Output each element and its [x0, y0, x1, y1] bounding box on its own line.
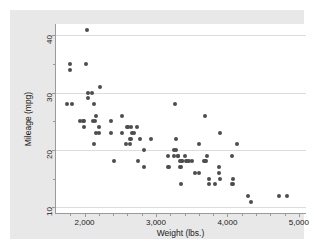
- x-tick-2000: [85, 213, 86, 217]
- data-point: [217, 171, 221, 175]
- x-tick-minor-1800: [70, 213, 71, 216]
- data-point: [135, 125, 139, 129]
- x-axis-title-text: Weight (lbs.): [157, 228, 205, 238]
- data-point: [172, 154, 176, 158]
- y-tick-minor-15: [53, 179, 56, 180]
- data-point: [246, 194, 250, 198]
- gridline-y-20: [56, 150, 306, 151]
- data-point: [277, 194, 281, 198]
- data-point: [85, 28, 89, 32]
- data-point: [125, 125, 129, 129]
- data-point: [128, 142, 132, 146]
- data-point: [218, 177, 222, 181]
- y-tick-label-10: 10: [46, 207, 54, 216]
- y-tick-label-40: 40: [46, 35, 54, 44]
- data-point: [138, 137, 142, 141]
- x-tick-5000: [299, 213, 300, 217]
- x-tick-minor-2600: [127, 213, 128, 216]
- x-axis-title: Weight (lbs.): [55, 228, 306, 238]
- data-point: [235, 142, 239, 146]
- data-point: [174, 148, 178, 152]
- x-tick-label-3000: 3,000: [146, 219, 166, 227]
- y-axis-title: Mileage (mpg): [22, 24, 34, 214]
- data-point: [98, 85, 102, 89]
- x-tick-3000: [156, 213, 157, 217]
- x-tick-4000: [227, 213, 228, 217]
- data-point: [149, 137, 153, 141]
- data-point: [174, 137, 178, 141]
- data-point: [70, 102, 74, 106]
- data-point: [120, 131, 124, 135]
- data-point: [213, 182, 217, 186]
- x-tick-label-5000: 5,000: [289, 219, 309, 227]
- data-point: [68, 62, 72, 66]
- data-point: [68, 68, 72, 72]
- data-point: [92, 142, 96, 146]
- data-point: [84, 62, 88, 66]
- data-point: [82, 125, 86, 129]
- data-point: [231, 177, 235, 181]
- x-tick-minor-4200: [242, 213, 243, 216]
- gridline-y-10: [56, 207, 306, 208]
- data-point: [217, 165, 221, 169]
- data-point: [97, 125, 101, 129]
- x-tick-minor-3200: [170, 213, 171, 216]
- y-axis-title-text: Mileage (mpg): [23, 92, 33, 146]
- data-point: [203, 114, 207, 118]
- graph-region: Mileage (mpg) 10203040 2,0003,0004,0005,…: [10, 10, 304, 239]
- data-point: [179, 182, 183, 186]
- data-point: [120, 114, 124, 118]
- x-tick-minor-4800: [285, 213, 286, 216]
- data-point: [92, 102, 96, 106]
- data-point: [65, 102, 69, 106]
- y-tick-minor-25: [53, 121, 56, 122]
- y-tick-label-20: 20: [46, 150, 54, 159]
- x-tick-minor-2400: [113, 213, 114, 216]
- data-point: [109, 119, 113, 123]
- y-tick-minor-35: [53, 64, 56, 65]
- data-point: [94, 114, 98, 118]
- y-tick-label-30: 30: [46, 93, 54, 102]
- data-point: [90, 91, 94, 95]
- data-point: [285, 194, 289, 198]
- data-point: [178, 165, 182, 169]
- x-tick-minor-4600: [270, 213, 271, 216]
- data-point: [249, 200, 253, 204]
- data-point: [197, 142, 201, 146]
- data-point: [109, 131, 113, 135]
- data-point: [112, 159, 116, 163]
- x-tick-minor-2800: [142, 213, 143, 216]
- data-point: [176, 154, 180, 158]
- data-point: [173, 102, 177, 106]
- data-point: [86, 96, 90, 100]
- x-tick-minor-3400: [185, 213, 186, 216]
- data-point: [207, 177, 211, 181]
- data-point: [218, 131, 222, 135]
- data-point: [166, 154, 170, 158]
- data-point: [94, 131, 98, 135]
- x-tick-minor-3600: [199, 213, 200, 216]
- x-tick-minor-2200: [99, 213, 100, 216]
- x-tick-minor-4400: [256, 213, 257, 216]
- data-point: [183, 154, 187, 158]
- data-point: [197, 171, 201, 175]
- data-point: [142, 148, 146, 152]
- data-point: [78, 119, 82, 123]
- data-point: [129, 137, 133, 141]
- gridline-y-40: [56, 35, 306, 36]
- data-point: [230, 154, 234, 158]
- data-point: [167, 165, 171, 169]
- x-tick-label-2000: 2,000: [75, 219, 95, 227]
- x-tick-minor-3800: [213, 213, 214, 216]
- x-tick-label-4000: 4,000: [217, 219, 237, 227]
- data-point: [93, 119, 97, 123]
- data-point: [136, 159, 140, 163]
- data-point: [142, 165, 146, 169]
- data-point: [82, 119, 86, 123]
- scatter-plot-graph: Mileage (mpg) 10203040 2,0003,0004,0005,…: [0, 0, 314, 249]
- data-point: [205, 154, 209, 158]
- plot-area: 10203040 2,0003,0004,0005,000: [55, 24, 306, 214]
- data-point: [207, 182, 211, 186]
